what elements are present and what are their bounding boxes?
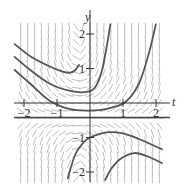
slope-mark <box>110 159 111 168</box>
slope-mark <box>116 76 119 84</box>
slope-mark <box>19 84 22 92</box>
slope-mark <box>114 123 121 128</box>
slope-mark <box>40 84 44 92</box>
slope-mark <box>32 92 37 99</box>
slope-mark <box>34 53 35 62</box>
slope-mark <box>32 130 36 137</box>
slope-mark <box>110 68 112 76</box>
slope-mark <box>48 152 50 160</box>
slope-mark <box>34 144 36 152</box>
slope-mark <box>20 76 22 84</box>
slope-field-diagram: −2−11221−1−2 t y <box>0 0 184 190</box>
y-tick-label: −2 <box>72 165 85 179</box>
slope-mark <box>97 30 98 39</box>
slope-mark <box>151 91 154 99</box>
slope-mark <box>66 145 72 151</box>
slope-mark <box>34 152 35 161</box>
slope-mark <box>117 144 119 152</box>
slope-mark <box>108 92 114 98</box>
slope-mark <box>111 175 112 184</box>
slope-mark <box>108 130 113 137</box>
slope-mark <box>41 152 42 161</box>
slope-mark <box>145 53 146 62</box>
slope-mark <box>131 46 132 55</box>
y-tick-label: 2 <box>79 27 85 41</box>
slope-mark <box>80 54 86 60</box>
slope-mark <box>81 46 86 53</box>
slope-mark <box>158 129 161 137</box>
slope-mark <box>130 84 133 92</box>
slope-mark <box>27 68 28 76</box>
slope-mark <box>62 175 63 184</box>
slope-mark <box>144 129 147 137</box>
slope-mark <box>151 84 153 92</box>
solution-curve-lower-curve-b <box>105 153 163 181</box>
slope-mark <box>72 87 81 88</box>
slope-mark <box>55 53 57 61</box>
slope-mark <box>62 30 63 39</box>
slope-mark <box>145 159 146 168</box>
slope-mark <box>142 108 149 113</box>
slope-mark <box>110 53 111 62</box>
slope-mark <box>20 159 21 168</box>
slope-mark <box>124 159 125 168</box>
slope-mark <box>41 167 42 176</box>
slope-mark <box>60 77 65 84</box>
slope-mark <box>124 68 126 76</box>
slope-mark <box>55 167 56 176</box>
slope-mark <box>144 91 147 99</box>
slope-mark <box>72 55 80 59</box>
slope-mark <box>62 167 63 175</box>
slope-mark <box>121 123 128 128</box>
slope-mark <box>52 130 58 136</box>
slope-mark <box>103 38 104 47</box>
slope-mark <box>24 123 30 129</box>
slope-mark <box>110 61 112 69</box>
slope-mark <box>20 53 21 62</box>
slope-mark <box>55 23 56 32</box>
slope-mark <box>116 84 120 92</box>
slope-mark <box>62 23 63 32</box>
slope-mark <box>152 68 153 77</box>
slope-mark <box>48 46 49 55</box>
slope-mark <box>110 46 111 55</box>
slope-mark <box>137 92 141 100</box>
slope-mark <box>97 23 98 32</box>
slope-mark <box>33 137 36 145</box>
slope-mark <box>48 38 49 47</box>
slope-mark <box>26 92 30 100</box>
slope-mark <box>157 122 162 129</box>
slope-mark <box>102 144 105 152</box>
slope-mark <box>102 137 106 145</box>
slope-mark <box>135 108 142 113</box>
slope-mark <box>131 159 132 168</box>
slope-mark <box>100 124 108 127</box>
slope-mark <box>73 47 80 52</box>
slope-mark <box>47 137 51 145</box>
slope-mark <box>48 175 49 184</box>
slope-mark <box>62 38 63 47</box>
slope-mark <box>34 46 35 55</box>
slope-mark <box>46 130 51 137</box>
slope-mark <box>94 137 99 144</box>
slope-mark <box>59 138 65 145</box>
t-axis-label: t <box>172 95 176 109</box>
slope-mark <box>117 53 118 62</box>
slope-mark <box>138 68 139 77</box>
slope-mark <box>103 46 104 55</box>
slope-mark <box>73 31 78 38</box>
slope-mark <box>19 92 23 100</box>
slope-mark <box>80 153 87 158</box>
slope-mark <box>55 38 56 47</box>
slope-mark <box>27 46 28 55</box>
slope-mark <box>96 175 97 184</box>
slope-mark <box>145 76 147 84</box>
slope-mark <box>20 144 21 153</box>
slope-mark <box>124 46 125 55</box>
slope-mark <box>110 152 111 160</box>
slope-mark <box>27 159 28 168</box>
slope-mark <box>55 30 56 39</box>
slope-mark <box>67 152 71 159</box>
slope-mark <box>101 84 106 91</box>
slope-mark <box>115 92 120 99</box>
